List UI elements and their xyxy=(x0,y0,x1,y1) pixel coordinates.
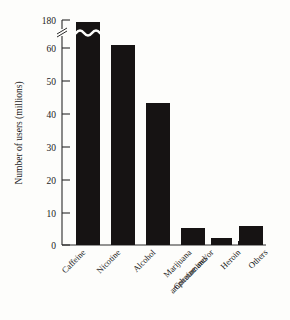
chart-canvas: 180 60 50 40 30 20 10 0 Number of users … xyxy=(0,0,290,320)
y-tick-label-60: 60 xyxy=(47,44,57,54)
y-tick-label-50: 50 xyxy=(47,77,57,87)
y-tick-label-180: 180 xyxy=(42,16,57,26)
y-tick-label-40: 40 xyxy=(47,110,57,120)
bar-others xyxy=(239,226,263,245)
y-tick-label-0: 0 xyxy=(51,241,56,251)
chart-background xyxy=(0,0,290,320)
bar-alcohol xyxy=(146,103,170,245)
bar-caffeine xyxy=(76,22,100,245)
y-axis-title: Number of users (millions) xyxy=(14,81,25,184)
y-tick-label-10: 10 xyxy=(47,209,57,219)
bar-chart-figure: 180 60 50 40 30 20 10 0 Number of users … xyxy=(0,0,290,320)
y-tick-label-20: 20 xyxy=(47,176,57,186)
y-tick-label-30: 30 xyxy=(47,143,57,153)
bar-nicotine xyxy=(111,45,135,245)
bar-marijuana xyxy=(181,228,205,245)
bar-cocaine-amphetamines xyxy=(211,238,232,245)
